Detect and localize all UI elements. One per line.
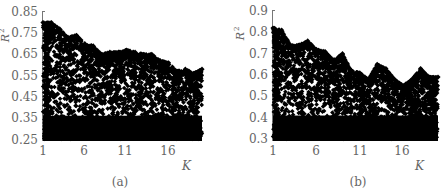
x-axis-label-b: K [414, 159, 425, 173]
x-tick-label: 1 [269, 144, 277, 158]
x-tick-label: 11 [352, 144, 367, 158]
y-tick-label: 0.8 [249, 25, 268, 39]
scatter-plot-a: 0.85 0.75 0.65 0.55 0.45 0.35 0.25 R 2 1… [0, 0, 221, 192]
y-tick-label: 0.65 [11, 47, 38, 61]
x-tick-label: 1 [39, 144, 47, 158]
x-tick-labels-a: 1 6 11 16 [39, 144, 175, 158]
x-tick-label: 11 [117, 144, 132, 158]
x-tick-label: 16 [160, 144, 175, 158]
y-tick-labels-b: 0.9 0.8 0.7 0.6 0.5 0.4 0.3 [249, 4, 268, 146]
y-axis-label: R [0, 34, 12, 43]
y-tick-labels-a: 0.85 0.75 0.65 0.55 0.45 0.35 0.25 [11, 5, 38, 147]
x-axis-label-a: K [181, 159, 192, 173]
scatter-canvas-a: 0.85 0.75 0.65 0.55 0.45 0.35 0.25 R 2 1… [0, 0, 221, 192]
x-tick-label: 6 [312, 144, 320, 158]
x-tick-labels-b: 1 6 11 16 [269, 144, 409, 158]
scatter-canvas-b: 0.9 0.8 0.7 0.6 0.5 0.4 0.3 R 2 1 6 11 1… [221, 0, 442, 192]
y-tick-label: 0.75 [11, 26, 38, 40]
y-tick-label: 0.85 [11, 5, 38, 19]
x-tick-label: 6 [80, 144, 88, 158]
y-axis-superscript: 2 [0, 29, 6, 33]
y-tick-label: 0.7 [249, 47, 268, 61]
x-tick-label: 16 [394, 144, 409, 158]
y-tick-label: 0.45 [11, 90, 38, 104]
y-tick-label: 0.4 [249, 111, 268, 125]
y-tick-label: 0.55 [11, 69, 38, 83]
data-points-a [40, 20, 204, 141]
y-axis-label: R [234, 32, 247, 41]
y-tick-label: 0.35 [11, 111, 38, 125]
scatter-plot-b: 0.9 0.8 0.7 0.6 0.5 0.4 0.3 R 2 1 6 11 1… [221, 0, 442, 192]
panel-label-a: (a) [112, 175, 129, 189]
y-tick-label: 0.3 [249, 132, 268, 146]
y-tick-label: 0.9 [249, 4, 268, 18]
y-axis-title-a: R 2 [0, 29, 12, 44]
y-tick-label: 0.25 [11, 133, 38, 147]
y-axis-superscript: 2 [233, 27, 241, 31]
panel-label-b: (b) [349, 175, 366, 189]
y-tick-label: 0.6 [249, 68, 268, 82]
data-points-b [270, 26, 440, 142]
scatter-markers [270, 26, 440, 142]
y-axis-title-b: R 2 [233, 27, 247, 42]
y-tick-label: 0.5 [249, 89, 268, 103]
